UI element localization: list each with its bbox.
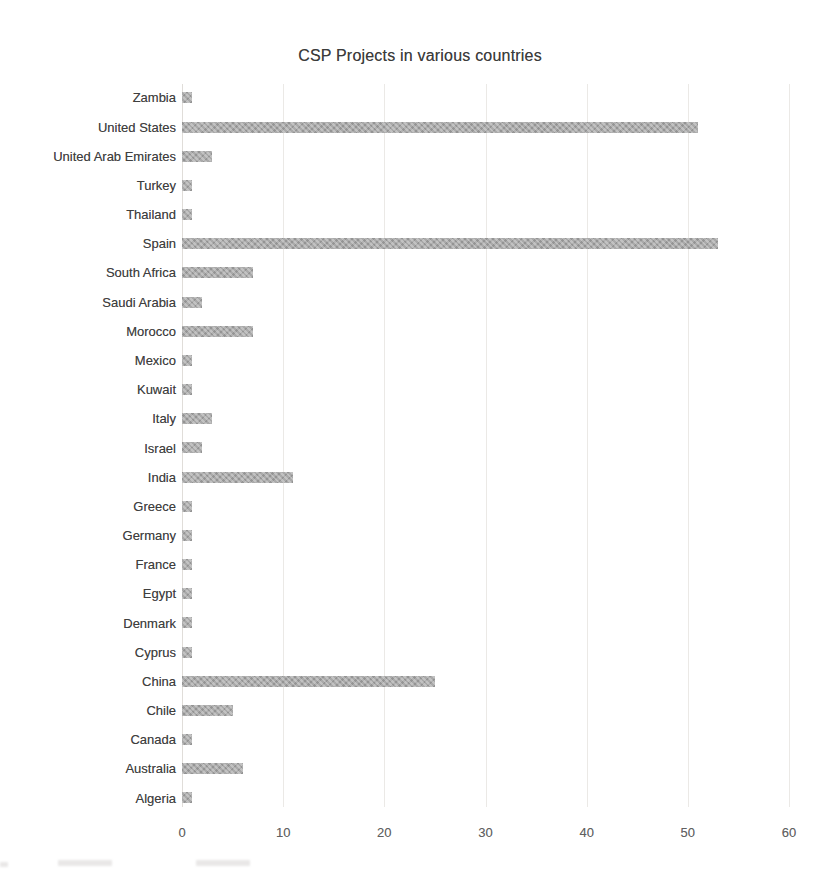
- x-tick-label: 0: [178, 825, 185, 840]
- bar: [182, 151, 212, 162]
- x-tick-label: 60: [782, 825, 796, 840]
- category-label: United States: [0, 113, 176, 142]
- bar-chart: ZambiaUnited StatesUnited Arab EmiratesT…: [0, 0, 831, 871]
- bar-row: United Arab Emirates: [0, 142, 831, 171]
- x-tick-label: 30: [478, 825, 492, 840]
- bar-row: Thailand: [0, 200, 831, 229]
- x-tick-label: 20: [377, 825, 391, 840]
- bar: [182, 792, 192, 803]
- bar-row: Canada: [0, 725, 831, 754]
- category-label: Greece: [0, 492, 176, 521]
- bar: [182, 763, 243, 774]
- scan-artifact: [196, 860, 250, 866]
- bar: [182, 734, 192, 745]
- category-label: South Africa: [0, 258, 176, 287]
- bar-row: Mexico: [0, 346, 831, 375]
- bar-row: Algeria: [0, 783, 831, 812]
- bar-row: South Africa: [0, 258, 831, 287]
- x-tick-label: 10: [276, 825, 290, 840]
- category-label: India: [0, 463, 176, 492]
- category-label: Zambia: [0, 83, 176, 112]
- bar: [182, 559, 192, 570]
- bar: [182, 705, 233, 716]
- chart-page: CSP Projects in various countries Zambia…: [0, 0, 831, 871]
- bar: [182, 267, 253, 278]
- category-label: Turkey: [0, 171, 176, 200]
- bar-row: Chile: [0, 696, 831, 725]
- bar-row: Egypt: [0, 579, 831, 608]
- category-label: Spain: [0, 229, 176, 258]
- category-label: Kuwait: [0, 375, 176, 404]
- bar: [182, 326, 253, 337]
- bar-row: Australia: [0, 754, 831, 783]
- bar-row: Israel: [0, 433, 831, 462]
- category-label: Saudi Arabia: [0, 288, 176, 317]
- bar-row: Spain: [0, 229, 831, 258]
- bar: [182, 238, 718, 249]
- bar: [182, 647, 192, 658]
- bar-row: Greece: [0, 492, 831, 521]
- category-label: Canada: [0, 725, 176, 754]
- bar-row: Italy: [0, 404, 831, 433]
- category-label: Mexico: [0, 346, 176, 375]
- bar-row: Cyprus: [0, 638, 831, 667]
- category-label: Denmark: [0, 608, 176, 637]
- bar-row: France: [0, 550, 831, 579]
- bar: [182, 384, 192, 395]
- bar-row: Saudi Arabia: [0, 288, 831, 317]
- bar: [182, 122, 698, 133]
- bar: [182, 209, 192, 220]
- category-label: Thailand: [0, 200, 176, 229]
- category-label: Italy: [0, 404, 176, 433]
- bar: [182, 588, 192, 599]
- category-label: Egypt: [0, 579, 176, 608]
- bar: [182, 501, 192, 512]
- bar: [182, 472, 293, 483]
- bar: [182, 676, 435, 687]
- category-label: Germany: [0, 521, 176, 550]
- category-label: United Arab Emirates: [0, 142, 176, 171]
- bar-row: Kuwait: [0, 375, 831, 404]
- bar: [182, 180, 192, 191]
- bar-row: India: [0, 463, 831, 492]
- bar-row: China: [0, 667, 831, 696]
- bar-row: Denmark: [0, 608, 831, 637]
- category-label: Australia: [0, 754, 176, 783]
- category-label: Israel: [0, 433, 176, 462]
- category-label: Algeria: [0, 783, 176, 812]
- bar: [182, 530, 192, 541]
- scan-artifact: [0, 862, 8, 867]
- category-label: Morocco: [0, 317, 176, 346]
- bar-row: Zambia: [0, 83, 831, 112]
- x-tick-label: 50: [681, 825, 695, 840]
- bar: [182, 442, 202, 453]
- bar: [182, 355, 192, 366]
- category-label: Cyprus: [0, 638, 176, 667]
- x-tick-label: 40: [579, 825, 593, 840]
- bar: [182, 617, 192, 628]
- category-label: Chile: [0, 696, 176, 725]
- bar-row: Germany: [0, 521, 831, 550]
- category-label: France: [0, 550, 176, 579]
- bar: [182, 297, 202, 308]
- bar-row: United States: [0, 113, 831, 142]
- bar: [182, 413, 212, 424]
- category-label: China: [0, 667, 176, 696]
- bar-row: Morocco: [0, 317, 831, 346]
- bar: [182, 92, 192, 103]
- bar-row: Turkey: [0, 171, 831, 200]
- scan-artifact: [58, 860, 112, 866]
